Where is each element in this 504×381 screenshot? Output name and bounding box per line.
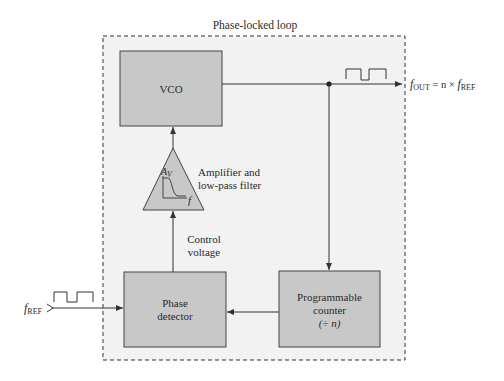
input-chevron-icon — [47, 304, 53, 312]
input-subscript: REF — [27, 307, 42, 316]
control-voltage-line1: Control — [179, 233, 229, 246]
vco-label: VCO — [120, 83, 222, 96]
input-square-wave-icon — [54, 292, 93, 302]
input-label: fREF — [24, 302, 42, 318]
diagram-title: Phase-locked loop — [190, 19, 320, 32]
output-subscript: OUT — [413, 83, 429, 92]
amplifier-label-line2: low-pass filter — [198, 179, 278, 192]
phase-detector-label: Phase detector — [124, 297, 226, 323]
phase-detector-line2: detector — [124, 310, 226, 323]
amplifier-label: Amplifier and low-pass filter — [198, 166, 278, 192]
amplifier-label-line1: Amplifier and — [198, 166, 278, 179]
gain-symbol: AV — [161, 165, 172, 181]
counter-label: Programmable counter (÷ n) — [279, 291, 380, 330]
output-rhs-subscript: REF — [461, 83, 476, 92]
counter-line2: counter — [279, 304, 380, 317]
phase-detector-line1: Phase — [124, 297, 226, 310]
gain-subscript: V — [167, 170, 172, 179]
freq-symbol: f — [188, 194, 191, 207]
output-label: fOUT = n × fREF — [410, 78, 475, 94]
control-voltage-line2: voltage — [179, 246, 229, 259]
output-equation-mid: = n × — [430, 79, 458, 90]
counter-line3: (÷ n) — [279, 317, 380, 330]
counter-line1: Programmable — [279, 291, 380, 304]
control-voltage-label: Control voltage — [179, 233, 229, 259]
